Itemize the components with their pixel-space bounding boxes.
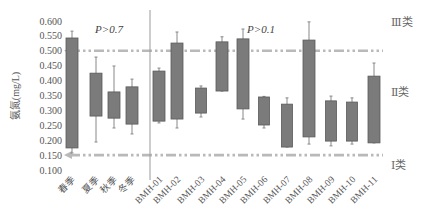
box-body <box>347 102 358 141</box>
box-body <box>259 97 270 125</box>
class-label: Ⅱ类 <box>391 85 409 98</box>
box-body <box>326 101 337 141</box>
box-BMH-11 <box>368 63 380 143</box>
x-tick-label: 冬季 <box>115 174 137 196</box>
x-axis-labels: 春季夏季秋季冬季BMH-01BMH-02BMH-03BMH-04BMH-05BM… <box>55 174 379 206</box>
y-tick-label: 0.450 <box>40 60 63 71</box>
box-body <box>66 38 78 148</box>
box-BMH-09 <box>326 96 337 146</box>
y-axis: 0.6000.5500.5000.4500.4000.3500.3000.250… <box>40 16 63 176</box>
box-body <box>90 73 102 116</box>
box-BMH-06 <box>259 96 270 128</box>
x-tick-label: 秋季 <box>97 174 119 196</box>
y-tick-label: 0.150 <box>40 150 63 161</box>
y-tick-label: 0.350 <box>40 90 63 101</box>
y-tick-label: 0.600 <box>40 16 63 27</box>
box-BMH-08 <box>303 22 315 144</box>
p-value-annotation-site: P>0.1 <box>246 23 275 35</box>
box-BMH-07 <box>282 98 293 147</box>
ammonia-nitrogen-box-chart: 0.6000.5500.5000.4500.4000.3500.3000.250… <box>0 0 423 224</box>
y-tick-label: 0.250 <box>40 120 63 131</box>
y-axis-title: 氨氮(mg/L) <box>9 72 22 120</box>
water-quality-class-labels: Ⅲ类Ⅱ类Ⅰ类 <box>391 15 413 170</box>
y-tick-label: 0.400 <box>40 75 63 86</box>
y-tick-label: 0.500 <box>40 45 63 56</box>
box-BMH-10 <box>347 98 358 144</box>
box-body <box>126 87 138 124</box>
y-tick-label: 0.200 <box>40 135 63 146</box>
box-body <box>171 43 183 119</box>
x-tick-label: 春季 <box>55 174 77 196</box>
box-body <box>108 92 120 118</box>
box-BMH-01 <box>153 68 165 123</box>
box-body <box>216 42 228 91</box>
x-tick-label: 夏季 <box>79 174 101 196</box>
box-春季 <box>66 31 78 153</box>
box-秋季 <box>108 66 120 128</box>
class-label: Ⅲ类 <box>391 15 413 28</box>
y-axis-label: 氨氮(mg/L) <box>9 72 22 120</box>
box-冬季 <box>126 79 138 134</box>
class-label: Ⅰ类 <box>391 158 406 171</box>
y-tick-label: 0.300 <box>40 105 63 116</box>
box-body <box>237 39 249 109</box>
box-body <box>282 104 293 147</box>
box-BMH-02 <box>171 32 183 128</box>
box-body <box>196 88 207 113</box>
y-tick-label: 0.550 <box>40 30 63 41</box>
box-BMH-05 <box>237 29 249 119</box>
box-BMH-04 <box>216 37 228 91</box>
arrow-left-icon <box>64 151 72 159</box>
p-value-annotation-season: P>0.7 <box>94 23 123 35</box>
box-夏季 <box>90 57 102 142</box>
boxes <box>66 22 380 153</box>
box-body <box>153 71 165 121</box>
box-body <box>303 40 315 137</box>
box-BMH-03 <box>196 86 207 117</box>
box-body <box>368 76 380 143</box>
y-tick-label: 0.100 <box>40 165 63 176</box>
